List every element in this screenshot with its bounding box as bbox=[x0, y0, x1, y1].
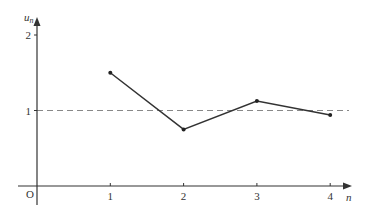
origin-label: O bbox=[26, 188, 34, 200]
data-series bbox=[108, 71, 332, 132]
x-tick-label: 2 bbox=[181, 190, 187, 202]
x-axis bbox=[18, 183, 352, 190]
sequence-chart: 1234 12 O n un bbox=[0, 0, 367, 218]
y-tick-label: 2 bbox=[26, 29, 32, 41]
series-line bbox=[110, 73, 330, 130]
x-tick-label: 1 bbox=[108, 190, 114, 202]
y-axis-label: un bbox=[24, 11, 34, 25]
y-tick-label: 1 bbox=[26, 105, 32, 117]
x-tick-label: 4 bbox=[327, 190, 333, 202]
data-point bbox=[108, 71, 112, 75]
data-point bbox=[182, 127, 186, 131]
x-tick-label: 3 bbox=[254, 190, 260, 202]
data-point bbox=[328, 113, 332, 117]
x-axis-label: n bbox=[346, 191, 352, 203]
y-ticks: 12 bbox=[26, 29, 38, 117]
data-point bbox=[255, 99, 259, 103]
